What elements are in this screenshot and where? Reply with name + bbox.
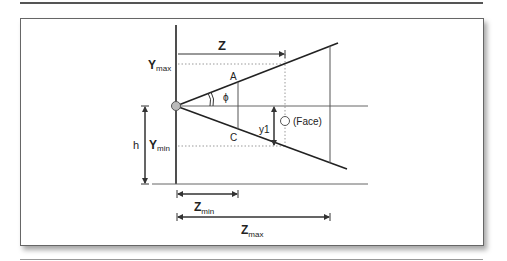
fov-diagram: Z Ymax A ϕ C y1 (Face) h Ymin Zmin Zmax xyxy=(0,0,507,261)
y-max-label: Ymax xyxy=(148,58,171,73)
y-min-label: Ymin xyxy=(149,138,170,153)
z-label: Z xyxy=(218,38,226,53)
upper-ray xyxy=(176,43,338,106)
phi-angle-arc xyxy=(211,92,214,106)
z-max-label: Zmax xyxy=(241,223,263,239)
point-c-label: C xyxy=(230,132,237,143)
camera-origin-icon xyxy=(172,102,181,111)
phi-label: ϕ xyxy=(223,92,229,103)
point-a-label: A xyxy=(230,71,237,82)
face-label: (Face) xyxy=(293,116,322,127)
z-min-label: Zmin xyxy=(194,200,214,216)
face-marker-icon xyxy=(281,117,290,126)
y1-label: y1 xyxy=(259,124,270,135)
h-label: h xyxy=(133,139,139,151)
